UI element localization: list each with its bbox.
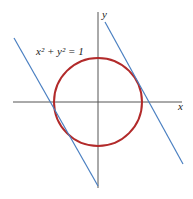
diagram-canvas: [0, 0, 193, 199]
equation-label: x² + y² = 1: [36, 45, 84, 57]
diagram: x² + y² = 1 y x: [0, 0, 193, 199]
y-axis-label: y: [102, 8, 107, 20]
x-axis-label: x: [178, 100, 183, 112]
